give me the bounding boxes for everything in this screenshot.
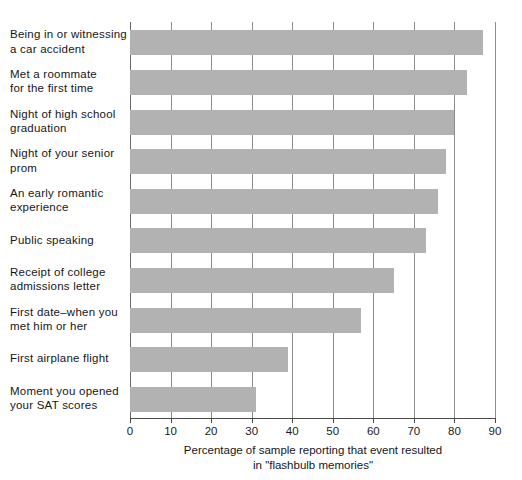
- plot-area: [130, 22, 495, 418]
- category-label-line: Moment you opened: [10, 384, 128, 399]
- category-label-line: a car accident: [10, 42, 128, 57]
- category-label-line: Public speaking: [10, 233, 128, 248]
- x-tick-label: 40: [286, 424, 299, 438]
- x-axis-title-line-1: Percentage of sample reporting that even…: [130, 443, 496, 458]
- x-axis-title: Percentage of sample reporting that even…: [130, 443, 496, 473]
- category-label-line: Met a roommate: [10, 67, 128, 82]
- bar: [130, 387, 256, 412]
- bar: [130, 149, 446, 174]
- category-label-column: Being in or witnessinga car accidentMet …: [8, 0, 128, 480]
- tick-mark-90: [495, 418, 496, 423]
- category-label: An early romanticexperience: [10, 186, 128, 215]
- category-label-line: admissions letter: [10, 279, 128, 294]
- x-tick-label: 0: [127, 424, 133, 438]
- category-label-line: Being in or witnessing: [10, 27, 128, 42]
- category-label: Public speaking: [10, 233, 128, 248]
- x-axis-title-line-2: in "flashbulb memories": [130, 458, 496, 473]
- x-tick-label: 20: [205, 424, 218, 438]
- bar: [130, 110, 454, 135]
- tick-mark-80: [454, 418, 455, 423]
- x-tick-label: 10: [164, 424, 177, 438]
- category-label-line: First airplane flight: [10, 351, 128, 366]
- category-label-line: for the first time: [10, 81, 128, 96]
- category-label: First date–when youmet him or her: [10, 305, 128, 334]
- tick-mark-0: [130, 418, 131, 423]
- category-label-line: Receipt of college: [10, 265, 128, 280]
- category-label: Night of high schoolgraduation: [10, 107, 128, 136]
- category-label-line: experience: [10, 200, 128, 215]
- tick-mark-70: [414, 418, 415, 423]
- bar: [130, 30, 483, 55]
- tick-mark-20: [211, 418, 212, 423]
- gridline-90: [495, 22, 496, 418]
- x-tick-label: 80: [448, 424, 461, 438]
- bar: [130, 308, 361, 333]
- tick-mark-10: [171, 418, 172, 423]
- category-label: Night of your seniorprom: [10, 146, 128, 175]
- x-tick-label: 90: [489, 424, 502, 438]
- tick-mark-50: [333, 418, 334, 423]
- category-label: Receipt of collegeadmissions letter: [10, 265, 128, 294]
- x-axis-line: [130, 418, 496, 419]
- bar: [130, 70, 467, 95]
- category-label-line: First date–when you: [10, 305, 128, 320]
- x-tick-label: 30: [245, 424, 258, 438]
- bar: [130, 347, 288, 372]
- x-tick-label: 70: [407, 424, 420, 438]
- category-label: Met a roommatefor the first time: [10, 67, 128, 96]
- x-tick-label: 50: [326, 424, 339, 438]
- tick-mark-60: [373, 418, 374, 423]
- bar: [130, 189, 438, 214]
- category-label-line: met him or her: [10, 319, 128, 334]
- category-label: Being in or witnessinga car accident: [10, 27, 128, 56]
- category-label-line: your SAT scores: [10, 398, 128, 413]
- x-tick-label: 60: [367, 424, 380, 438]
- tick-mark-30: [252, 418, 253, 423]
- category-label-line: An early romantic: [10, 186, 128, 201]
- bar: [130, 268, 394, 293]
- category-label-line: Night of your senior: [10, 146, 128, 161]
- category-label-line: prom: [10, 161, 128, 176]
- category-label-line: Night of high school: [10, 107, 128, 122]
- tick-mark-40: [292, 418, 293, 423]
- category-label: First airplane flight: [10, 351, 128, 366]
- category-label: Moment you openedyour SAT scores: [10, 384, 128, 413]
- flashbulb-memories-bar-chart: Being in or witnessinga car accidentMet …: [0, 0, 522, 480]
- bar: [130, 228, 426, 253]
- category-label-line: graduation: [10, 121, 128, 136]
